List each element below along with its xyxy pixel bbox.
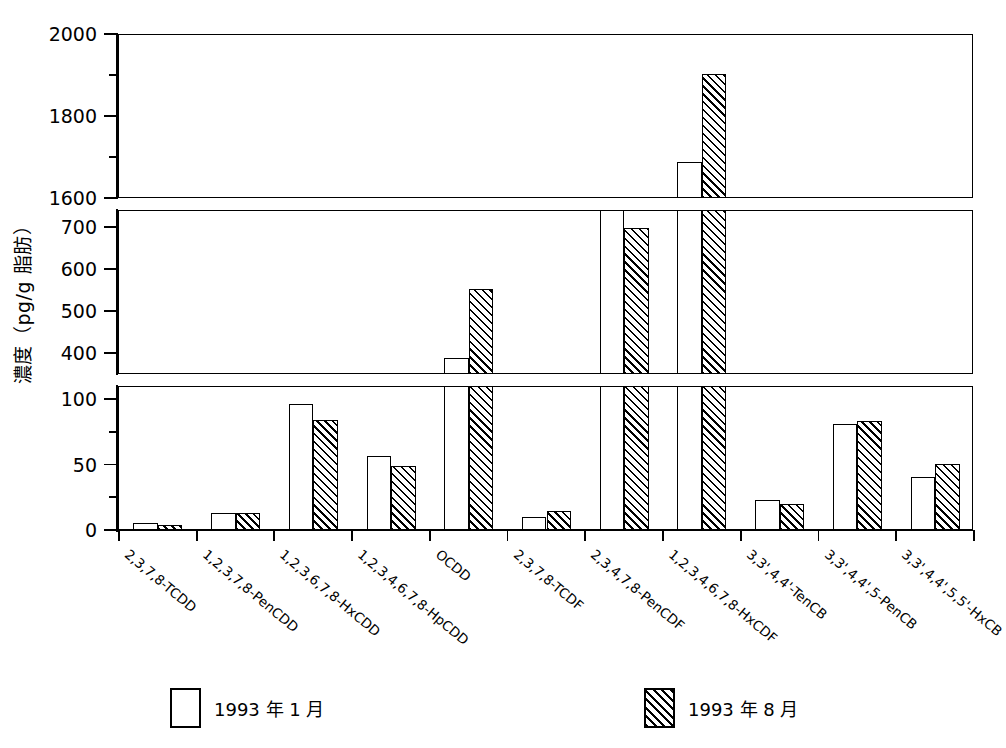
x-axis-tick	[584, 530, 586, 541]
bar	[624, 228, 648, 373]
bar	[313, 420, 337, 529]
legend-item-2: 1993 年 8 月	[644, 688, 798, 728]
y-axis-tick	[104, 352, 118, 354]
y-axis-tick-label: 1800	[49, 107, 97, 126]
bar	[857, 421, 881, 529]
legend-swatch-open	[170, 688, 201, 728]
x-axis-tick	[662, 530, 664, 541]
bar	[600, 387, 624, 529]
bar	[702, 74, 726, 197]
y-axis-tick-label: 500	[61, 302, 97, 321]
bar	[755, 500, 779, 529]
y-axis-tick	[104, 398, 118, 400]
y-axis-tick	[104, 33, 118, 35]
plot-area-middle	[119, 211, 972, 373]
y-axis-title-text: 濃度（pg/g 脂肪）	[8, 150, 35, 450]
x-axis-tick	[895, 530, 897, 541]
bar	[677, 387, 701, 529]
bar	[702, 211, 726, 373]
bar	[444, 387, 468, 529]
bar	[367, 456, 391, 529]
y-axis-tick-label: 50	[73, 456, 97, 475]
legend-label-2: 1993 年 8 月	[688, 695, 798, 721]
bar	[677, 162, 701, 197]
y-axis-tick	[104, 529, 118, 531]
bar	[469, 289, 493, 373]
y-axis-tick-label: 0	[85, 521, 97, 540]
bar	[522, 517, 546, 529]
y-axis-tick-label: 700	[61, 218, 97, 237]
y-axis-tick-label: 100	[61, 390, 97, 409]
y-axis-tick-label: 2000	[49, 25, 97, 44]
x-axis-label: 2,3,7,8-TCDD	[122, 546, 200, 615]
x-axis-label: 3,3',4,4'-TenCB	[744, 546, 831, 622]
x-axis-tick	[740, 530, 742, 541]
y-axis-tick	[104, 464, 118, 466]
y-axis-tick	[104, 226, 118, 228]
y-axis-tick-label: 400	[61, 344, 97, 363]
bar	[236, 513, 260, 529]
legend-swatch-hatched	[644, 688, 675, 728]
bar	[624, 387, 648, 529]
y-axis-tick	[104, 115, 118, 117]
bar	[547, 511, 571, 529]
x-axis-label: OCDD	[433, 546, 475, 585]
y-axis-tick	[109, 156, 118, 158]
y-axis-title: 濃度（pg/g 脂肪）	[8, 0, 35, 150]
plot-area-top	[119, 35, 972, 197]
y-axis-spine-middle	[116, 209, 118, 375]
bar	[289, 404, 313, 529]
y-axis-tick	[109, 74, 118, 76]
y-axis-tick-label: 1600	[49, 189, 97, 208]
x-axis-tick	[507, 530, 509, 541]
y-axis-spine-bottom	[116, 385, 118, 532]
plot-panel-middle	[118, 210, 973, 374]
x-axis-tick	[196, 530, 198, 541]
bar	[600, 211, 624, 373]
bar	[780, 504, 804, 530]
bar	[469, 387, 493, 529]
bar	[444, 358, 468, 373]
y-axis-tick	[109, 431, 118, 433]
plot-area-bottom	[119, 387, 972, 529]
bar	[833, 424, 857, 529]
bar	[702, 387, 726, 529]
x-axis-tick	[973, 530, 975, 541]
x-axis-tick	[273, 530, 275, 541]
plot-panel-bottom	[118, 386, 973, 530]
bar	[911, 477, 935, 529]
y-axis-tick	[109, 496, 118, 498]
x-axis-tick	[429, 530, 431, 541]
y-axis-tick	[104, 197, 118, 199]
legend-item-1: 1993 年 1 月	[170, 688, 324, 728]
x-axis-tick	[818, 530, 820, 541]
y-axis-tick	[104, 310, 118, 312]
x-axis-tick	[118, 530, 120, 541]
bar	[677, 211, 701, 373]
plot-panel-top	[118, 34, 973, 198]
bar	[211, 513, 235, 529]
x-axis-tick	[351, 530, 353, 541]
legend-label-1: 1993 年 1 月	[214, 695, 324, 721]
bar	[391, 466, 415, 529]
x-axis-label: 2,3,7,8-TCDF	[510, 546, 586, 613]
y-axis-tick	[104, 268, 118, 270]
bar	[935, 464, 959, 529]
x-axis-baseline	[116, 529, 973, 531]
y-axis-tick-label: 600	[61, 260, 97, 279]
